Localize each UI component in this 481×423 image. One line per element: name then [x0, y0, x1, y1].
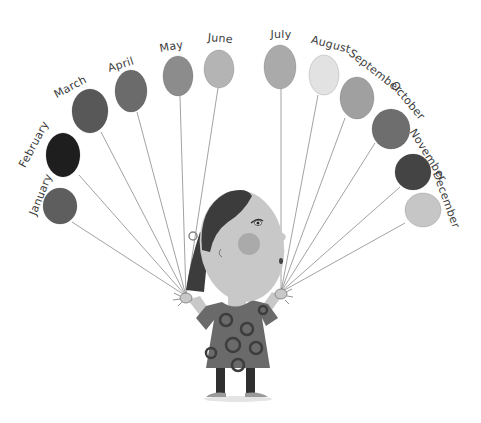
month-label-may: May	[159, 38, 185, 55]
balloon-march	[72, 89, 108, 133]
right-shoe	[245, 393, 268, 398]
balloon-string	[281, 187, 400, 292]
cheek	[238, 233, 260, 255]
hair-tie	[189, 232, 197, 240]
month-label-july: July	[270, 28, 292, 41]
balloon-april	[115, 70, 147, 112]
left-shoe	[206, 393, 226, 398]
right-leg	[246, 365, 255, 395]
balloon-july	[264, 45, 296, 89]
left-leg	[216, 365, 225, 395]
balloon-february	[46, 133, 80, 177]
balloon-illustration: JanuaryFebruaryMarchAprilMayJuneJulyAugu…	[0, 0, 481, 423]
balloon-june	[204, 50, 234, 88]
balloon-august	[309, 55, 339, 95]
balloon-december	[405, 193, 441, 227]
balloon-october	[372, 109, 410, 149]
mouth	[279, 258, 283, 264]
girl-figure	[173, 185, 293, 402]
month-label-august: August	[310, 33, 353, 56]
month-label-june: June	[206, 31, 233, 46]
balloon-may	[163, 56, 193, 96]
balloon-string	[180, 96, 186, 296]
balloon-string	[281, 118, 345, 292]
balloon-string	[281, 223, 405, 292]
balloon-september	[340, 77, 374, 119]
left-hand	[173, 293, 192, 306]
